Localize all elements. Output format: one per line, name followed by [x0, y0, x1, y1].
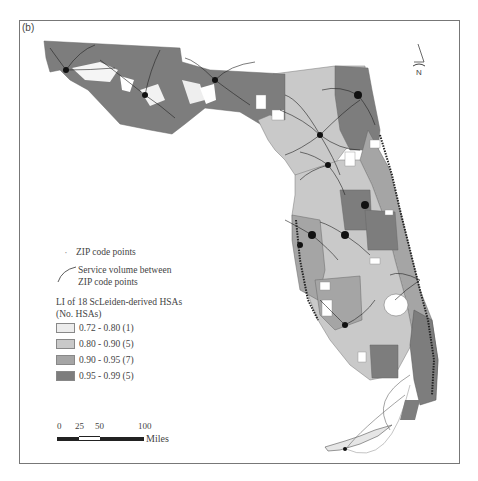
swatch-class-2	[56, 339, 75, 349]
swatch-class-3	[56, 355, 75, 365]
legend-class-1: 0.72 - 0.80 (1)	[56, 320, 182, 336]
scale-tick-0: 0	[57, 421, 62, 431]
legend-points-label: ZIP code points	[76, 247, 136, 257]
legend-title-line-1: LI of 18 ScLeiden-derived HSAs	[56, 296, 182, 308]
swatch-class-1	[56, 323, 75, 333]
map-legend: · ZIP code points Service volume between…	[56, 244, 182, 384]
swatch-class-4	[56, 371, 75, 381]
legend-class-4: 0.95 - 0.99 (5)	[56, 368, 182, 384]
svg-text:N: N	[416, 68, 422, 76]
legend-class-4-label: 0.95 - 0.99 (5)	[79, 371, 134, 381]
scale-segment-1	[57, 437, 79, 441]
scale-bar: 0 25 50 100 Miles	[57, 421, 169, 444]
florida-hsa-map	[0, 0, 478, 481]
legend-lines-row: Service volume between ZIP code points	[56, 264, 182, 288]
panhandle-region	[44, 41, 285, 134]
north-arrow-icon: N	[412, 42, 434, 76]
scale-segment-3	[100, 437, 144, 441]
legend-class-3: 0.90 - 0.95 (7)	[56, 352, 182, 368]
legend-lines-label-2: ZIP code points	[78, 276, 171, 288]
legend-title-line-2: (No. HSAs)	[56, 308, 182, 320]
point-symbol-icon: ·	[56, 247, 76, 258]
scale-unit: Miles	[146, 433, 169, 444]
north-arrow: N	[412, 42, 434, 80]
legend-class-3-label: 0.90 - 0.95 (7)	[79, 355, 134, 365]
scale-tick-100: 100	[138, 421, 152, 431]
scale-tick-50: 50	[95, 421, 104, 431]
legend-class-2-label: 0.80 - 0.90 (5)	[79, 339, 134, 349]
scale-tick-25: 25	[75, 421, 84, 431]
legend-title: LI of 18 ScLeiden-derived HSAs (No. HSAs…	[56, 296, 182, 320]
legend-lines-label-1: Service volume between	[78, 264, 171, 276]
flow-line-icon	[56, 264, 78, 284]
legend-class-1-label: 0.72 - 0.80 (1)	[79, 323, 134, 333]
legend-class-2: 0.80 - 0.90 (5)	[56, 336, 182, 352]
legend-points-row: · ZIP code points	[56, 244, 182, 260]
scale-segment-2	[79, 436, 100, 441]
